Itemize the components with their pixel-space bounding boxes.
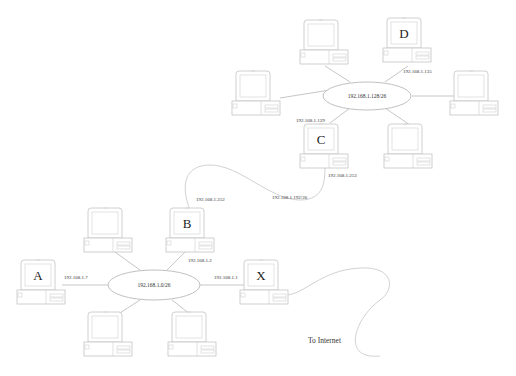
subnet-3-label: 192.168.1.192/26: [272, 195, 308, 200]
ip-c-link: 192.168.1.253: [328, 173, 357, 178]
computer-right-2: [450, 71, 498, 115]
host-letter-c: C: [317, 132, 326, 147]
ip-c-lan: 192.168.1.129: [296, 118, 325, 123]
host-letter-b: B: [183, 216, 192, 231]
computer-x: X: [240, 260, 288, 304]
ip-x: 192.168.1.1: [214, 275, 238, 280]
computer-b: B: [166, 208, 214, 252]
host-letter-x: X: [256, 268, 266, 283]
computer-a: A: [17, 260, 65, 304]
ip-d: 192.168.1.135: [403, 69, 432, 74]
ip-a: 192.168.1.7: [64, 275, 88, 280]
computer-bottom-right-2: [384, 124, 432, 168]
computer-top-right-1: [300, 20, 348, 64]
computer-c: C: [300, 124, 348, 168]
computer-icon: [84, 208, 132, 252]
host-letter-a: A: [33, 268, 43, 283]
subnet-2-label: 192.168.1.128/26: [348, 93, 387, 99]
computer-icon: [384, 124, 432, 168]
subnet-1-label: 192.168.1.0/26: [137, 282, 170, 288]
network-diagram: 192.168.1.0/26 192.168.1.128/26 192.168.…: [0, 0, 516, 376]
computer-icon: [84, 312, 132, 356]
computer-icon: [450, 71, 498, 115]
ip-b-link: 192.168.1.252: [196, 197, 225, 202]
link-cable-b-c: [185, 165, 325, 210]
host-letter-d: D: [399, 26, 408, 41]
computer-left-2: [232, 71, 280, 115]
computer-icon: [300, 20, 348, 64]
computer-icon: [168, 312, 216, 356]
ip-b-lan: 192.168.1.2: [188, 258, 212, 263]
computer-d: D: [383, 18, 431, 62]
computer-icon: [232, 71, 280, 115]
computer-top-left-1: [84, 208, 132, 252]
internet-label: To Internet: [308, 336, 342, 345]
computer-bottom-left-2: [168, 312, 216, 356]
subnet-2: 192.168.1.128/26: [323, 82, 411, 110]
subnet-1: 192.168.1.0/26: [108, 270, 200, 300]
computer-bottom-left-1: [84, 312, 132, 356]
